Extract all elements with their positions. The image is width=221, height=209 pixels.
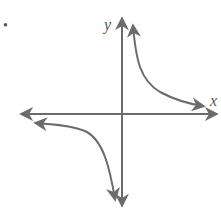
hyperbola-branch-quadrant-3 — [36, 123, 115, 199]
hyperbola-branch-quadrant-1 — [133, 26, 203, 106]
hyperbola-graph — [0, 0, 221, 209]
